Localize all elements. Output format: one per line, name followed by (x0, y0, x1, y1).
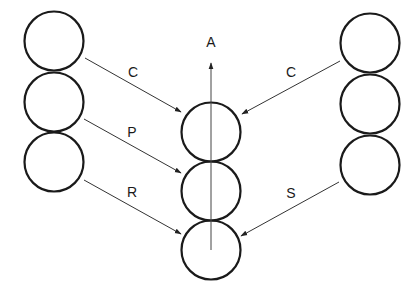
arrow-label-left-3: R (127, 184, 137, 200)
right-circle-1 (341, 14, 400, 73)
right-circle-3 (341, 136, 400, 195)
roller-diagram: A C P R C S (0, 0, 419, 302)
left-circle-3 (25, 133, 84, 192)
arrow-label-left-1: C (128, 64, 138, 80)
arrow-label-right-1: C (286, 64, 296, 80)
right-circle-2 (341, 75, 400, 134)
axis-label: A (206, 34, 216, 50)
left-circle-1 (25, 12, 84, 71)
arrow-label-left-2: P (127, 124, 136, 140)
arrow-label-right-3: S (286, 185, 295, 201)
left-circle-2 (25, 73, 84, 132)
